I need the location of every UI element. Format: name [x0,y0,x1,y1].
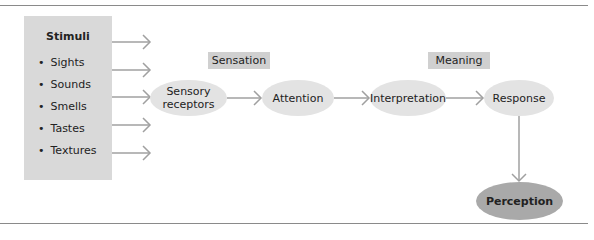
arrow-icon [227,91,261,105]
arrow-icon [112,35,150,49]
node-attention: Attention [262,80,334,116]
sensation-label: Sensation [208,52,270,69]
node-label: Sensory [162,85,214,98]
arrow-icon [512,116,526,181]
node-label: Perception [486,195,553,208]
node-perception: Perception [476,182,563,220]
node-label: receptors [162,98,214,111]
node-response: Response [484,80,554,116]
arrow-icon [334,91,369,105]
arrow-icon [112,90,150,104]
arrow-icon [112,118,150,132]
node-label: Interpretation [370,92,446,105]
node-interpretation: Interpretation [370,80,446,116]
node-sensory-receptors: Sensory receptors [150,80,227,116]
arrow-icon [112,146,150,160]
node-label: Attention [273,92,324,105]
node-label: Response [493,92,546,105]
arrow-icon [446,91,483,105]
arrow-icon [112,63,150,77]
meaning-label: Meaning [428,52,490,69]
